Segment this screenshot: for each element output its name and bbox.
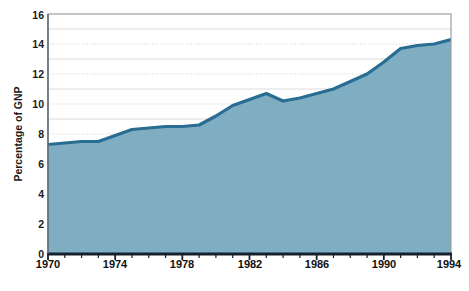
x-tick-label-1982: 1982 <box>238 258 262 270</box>
gnp-area-chart: Percentage of GNP 0 2 4 6 8 10 12 14 16 <box>0 0 469 291</box>
x-tick-label-1990: 1990 <box>372 258 396 270</box>
x-tick-label-1994: 1994 <box>437 258 461 270</box>
x-tick-label-1974: 1974 <box>103 258 127 270</box>
x-tick-label-1978: 1978 <box>170 258 194 270</box>
x-tick-label-1986: 1986 <box>305 258 329 270</box>
x-tick-label-1970: 1970 <box>36 258 60 270</box>
chart-plot-svg <box>0 0 469 291</box>
